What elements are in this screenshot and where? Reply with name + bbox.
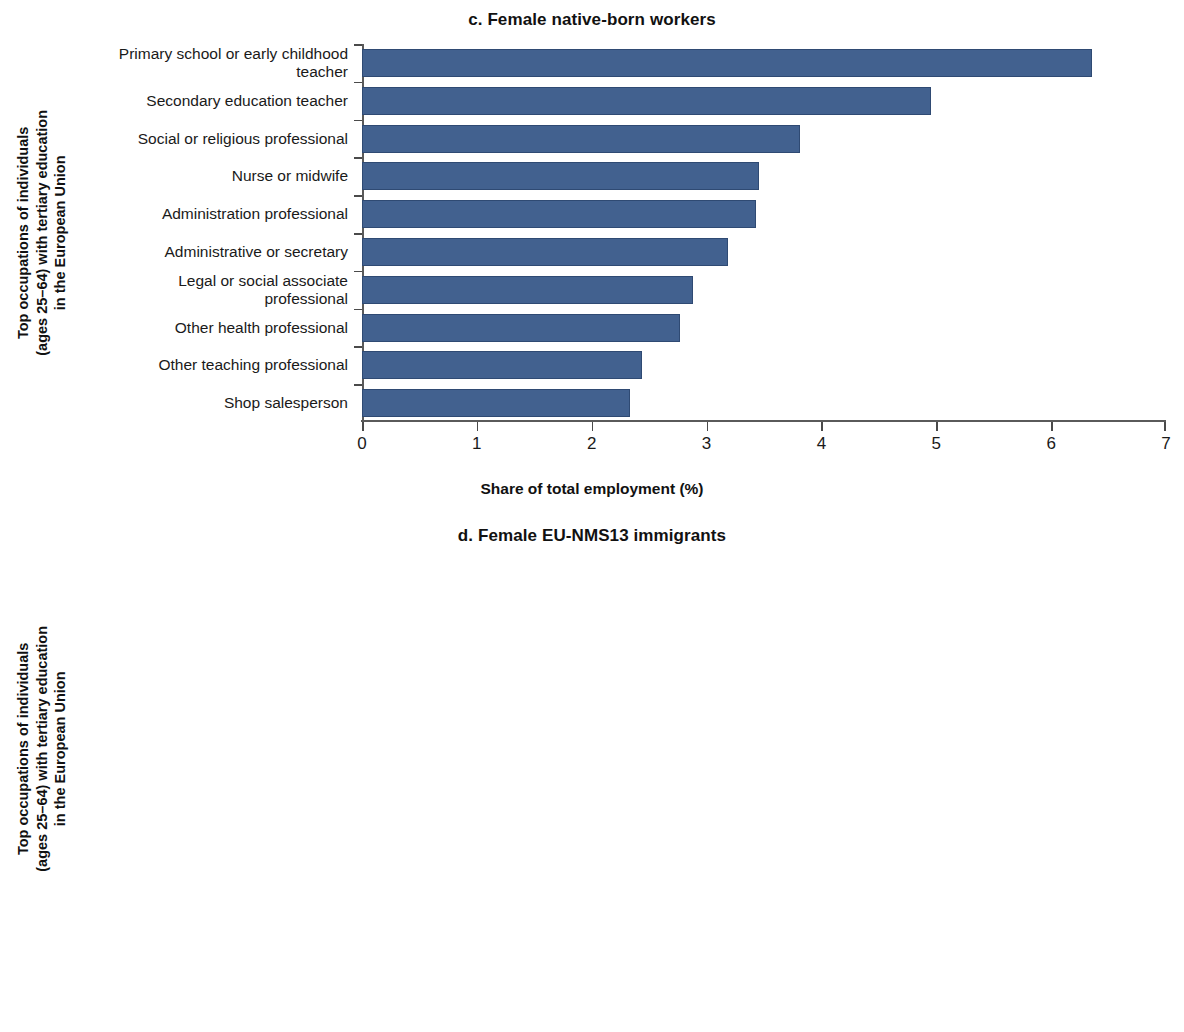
x-axis-tick-label: 6 xyxy=(1046,434,1055,454)
category-label: Secondary education teacher xyxy=(146,92,348,110)
bar xyxy=(362,389,630,417)
bar xyxy=(362,351,642,379)
y-axis-title-d: Top occupations of individuals (ages 25–… xyxy=(14,559,70,939)
x-axis-tick xyxy=(821,422,823,431)
x-axis-tick xyxy=(936,422,938,431)
category-label: Administrative or secretary xyxy=(165,243,348,261)
bar xyxy=(362,276,693,304)
bar xyxy=(362,200,756,228)
category-label: Other health professional xyxy=(175,318,348,336)
bar xyxy=(362,49,1092,77)
x-axis-tick xyxy=(707,422,709,431)
y-axis-tick xyxy=(354,195,362,197)
chart-title-c: c. Female native-born workers xyxy=(0,10,1184,30)
category-label: Shop salesperson xyxy=(224,394,348,412)
x-axis-tick xyxy=(1164,422,1166,431)
y-axis-tick xyxy=(354,157,362,159)
x-axis-tick xyxy=(1051,422,1053,431)
y-axis-tick xyxy=(354,82,362,84)
category-label: Social or religious professional xyxy=(138,129,348,147)
category-label: Primary school or early childhood teache… xyxy=(108,45,348,82)
bar xyxy=(362,162,759,190)
x-axis-title-c: Share of total employment (%) xyxy=(0,480,1184,498)
category-label: Legal or social associate professional xyxy=(108,271,348,308)
y-axis-tick xyxy=(354,384,362,386)
bar xyxy=(362,314,680,342)
x-axis-tick-label: 5 xyxy=(932,434,941,454)
category-label: Administration professional xyxy=(162,205,348,223)
y-axis-tick xyxy=(354,309,362,311)
y-axis-title-c: Top occupations of individuals (ages 25–… xyxy=(14,43,70,423)
bar xyxy=(362,238,728,266)
bar-rows-c: Primary school or early childhood teache… xyxy=(362,44,1166,422)
y-axis-tick xyxy=(354,271,362,273)
x-axis-ticks-c: 01234567 xyxy=(362,422,1166,462)
x-axis-tick-label: 1 xyxy=(472,434,481,454)
x-axis-tick-label: 2 xyxy=(587,434,596,454)
category-label: Nurse or midwife xyxy=(232,167,348,185)
y-axis-tick xyxy=(354,346,362,348)
chart-title-d: d. Female EU-NMS13 immigrants xyxy=(0,526,1184,546)
bar xyxy=(362,125,800,153)
y-axis-tick xyxy=(354,44,362,46)
y-axis-tick xyxy=(354,233,362,235)
chart-panel-c: c. Female native-born workers Top occupa… xyxy=(0,0,1184,516)
x-axis-tick-label: 7 xyxy=(1161,434,1170,454)
x-axis-tick xyxy=(592,422,594,431)
chart-panel-d: d. Female EU-NMS13 immigrants Top occupa… xyxy=(0,516,1184,1032)
y-axis-tick xyxy=(354,120,362,122)
x-axis-tick-label: 0 xyxy=(357,434,366,454)
x-axis-tick xyxy=(477,422,479,431)
x-axis-tick-label: 4 xyxy=(817,434,826,454)
x-axis-tick xyxy=(362,422,364,431)
x-axis-tick-label: 3 xyxy=(702,434,711,454)
bar xyxy=(362,87,931,115)
plot-area-c: Primary school or early childhood teache… xyxy=(362,44,1166,422)
category-label: Other teaching professional xyxy=(158,356,348,374)
